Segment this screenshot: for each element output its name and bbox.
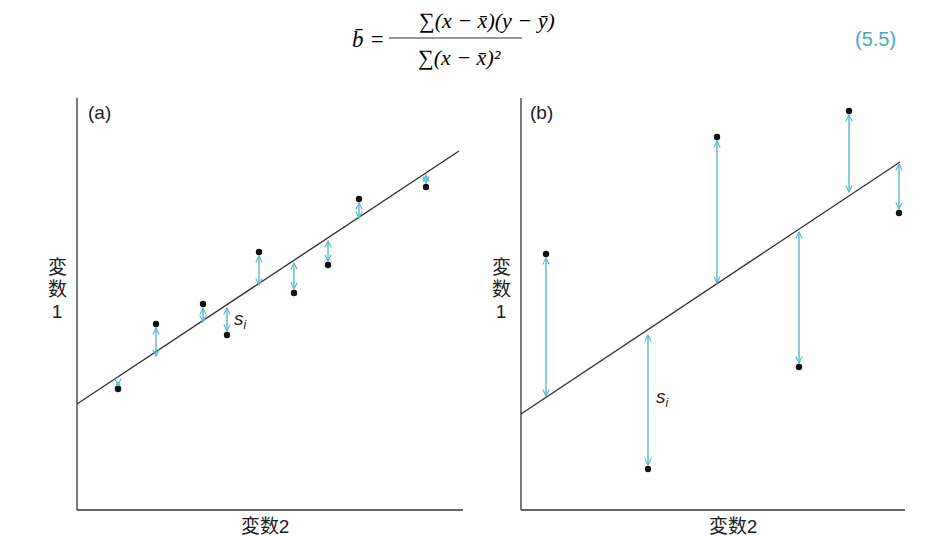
residual-label: si	[656, 386, 669, 410]
panel-b: (b) 変数2 変 数 1 si	[492, 98, 906, 536]
x-axis-label: 変数2	[709, 516, 758, 536]
data-point	[115, 386, 121, 392]
data-point	[645, 466, 651, 472]
data-point	[846, 108, 852, 114]
x-axis-label: 変数2	[241, 516, 290, 536]
data-point	[714, 134, 720, 140]
y-axis-label-char: 変	[492, 257, 511, 278]
y-axis-label-char: 1	[52, 301, 63, 322]
panel-a-plot	[77, 151, 459, 404]
data-point	[796, 364, 802, 370]
data-point	[256, 249, 262, 255]
panel-label: (a)	[88, 102, 111, 123]
data-point	[543, 251, 549, 257]
panel-label: (b)	[530, 102, 553, 123]
y-axis-label-char: 変	[48, 257, 67, 278]
panel-a: (a) 変数2 変 数 1 si	[48, 98, 464, 536]
panel-b-plot	[521, 108, 902, 472]
data-point	[325, 262, 331, 268]
data-point	[224, 332, 230, 338]
residual-label: si	[234, 308, 247, 332]
regression-line	[77, 151, 459, 404]
data-point	[423, 184, 429, 190]
data-point	[153, 321, 159, 327]
y-axis-label-char: 1	[496, 301, 507, 322]
charts-canvas: (a) 変数2 変 数 1 si (b) 変数2 変 数 1 si	[0, 0, 952, 536]
regression-line	[521, 162, 900, 414]
data-point	[896, 210, 902, 216]
data-point	[356, 196, 362, 202]
y-axis-label-char: 数	[492, 279, 511, 300]
data-point	[291, 290, 297, 296]
y-axis-label-char: 数	[48, 279, 67, 300]
data-point	[200, 301, 206, 307]
